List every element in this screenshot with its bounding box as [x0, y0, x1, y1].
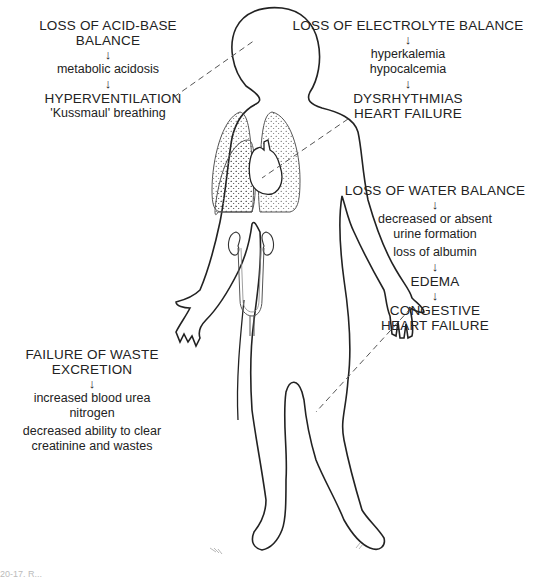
water-line2: urine formation — [340, 227, 530, 242]
arrow-down-icon: ↓ — [340, 198, 530, 212]
acid-base-result2: 'Kussmaul' breathing — [8, 106, 208, 121]
water-result3: HEART FAILURE — [340, 318, 530, 333]
electrolyte-line1: hyperkalemia — [292, 47, 524, 62]
waste-title: FAILURE OF WASTE — [0, 347, 184, 362]
arrow-down-icon: ↓ — [340, 289, 530, 303]
waste-line3: decreased ability to clear — [0, 424, 184, 439]
water-result2: CONGESTIVE — [340, 303, 530, 318]
water-line1: decreased or absent — [340, 212, 530, 227]
waste-line1: increased blood urea — [0, 391, 184, 406]
arrow-down-icon: ↓ — [8, 77, 208, 91]
arrow-down-icon: ↓ — [292, 77, 524, 91]
acid-base-title: LOSS OF ACID-BASE BALANCE — [8, 18, 208, 48]
electrolyte-block: LOSS OF ELECTROLYTE BALANCE ↓ hyperkalem… — [292, 18, 524, 121]
water-line3: loss of albumin — [340, 245, 530, 260]
electrolyte-result2: HEART FAILURE — [292, 106, 524, 121]
arrow-down-icon: ↓ — [8, 48, 208, 62]
arrow-down-icon: ↓ — [340, 260, 530, 274]
water-block: LOSS OF WATER BALANCE ↓ decreased or abs… — [340, 183, 530, 333]
waste-block: FAILURE OF WASTE EXCRETION ↓ increased b… — [0, 347, 184, 454]
acid-base-result: HYPERVENTILATION — [18, 91, 208, 106]
waste-line2: nitrogen — [0, 406, 184, 421]
electrolyte-result: DYSRHYTHMIAS — [292, 91, 524, 106]
waste-line4: creatinine and wastes — [0, 439, 184, 454]
left-lung-shape — [212, 112, 254, 212]
water-title: LOSS OF WATER BALANCE — [340, 183, 530, 198]
water-result: EDEMA — [340, 274, 530, 289]
arrow-down-icon: ↓ — [0, 377, 184, 391]
acid-base-line1: metabolic acidosis — [8, 62, 208, 77]
acid-base-block: LOSS OF ACID-BASE BALANCE ↓ metabolic ac… — [8, 18, 208, 121]
electrolyte-title: LOSS OF ELECTROLYTE BALANCE — [292, 18, 524, 33]
arrow-down-icon: ↓ — [292, 33, 524, 47]
electrolyte-line2: hypocalcemia — [292, 62, 524, 77]
waste-title2: EXCRETION — [0, 362, 184, 377]
figure-caption: 20-17. R... — [0, 569, 42, 579]
